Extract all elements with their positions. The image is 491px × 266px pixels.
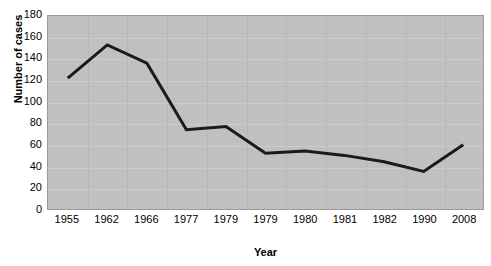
y-tick-label: 0 — [36, 204, 42, 215]
x-tick-label: 1981 — [333, 213, 357, 226]
data-series-line — [48, 16, 483, 209]
x-tick-label: 1980 — [293, 213, 317, 226]
y-tick-label: 20 — [30, 182, 42, 193]
y-tick-label: 140 — [24, 52, 42, 63]
y-tick-label: 80 — [30, 117, 42, 128]
x-tick-label: 1955 — [55, 213, 79, 226]
x-tick-label: 2008 — [452, 213, 476, 226]
x-axis-title: Year — [47, 246, 484, 258]
x-tick-label: 1990 — [412, 213, 436, 226]
plot-area — [47, 15, 484, 210]
x-tick-label: 1977 — [174, 213, 198, 226]
chart-title — [0, 0, 491, 2]
x-axis-tick-labels: 1955196219661977197919791980198119821990… — [47, 213, 484, 231]
x-tick-label: 1982 — [372, 213, 396, 226]
y-tick-label: 100 — [24, 96, 42, 107]
y-axis-tick-labels: 020406080100120140160180 — [0, 0, 45, 266]
x-tick-label: 1979 — [214, 213, 238, 226]
x-tick-label: 1962 — [94, 213, 118, 226]
y-tick-label: 60 — [30, 139, 42, 150]
x-tick-label: 1966 — [134, 213, 158, 226]
y-tick-label: 120 — [24, 74, 42, 85]
y-tick-label: 40 — [30, 161, 42, 172]
y-tick-label: 180 — [24, 9, 42, 20]
y-tick-label: 160 — [24, 31, 42, 42]
chart-figure: Number of cases 020406080100120140160180… — [0, 0, 491, 266]
x-tick-label: 1979 — [253, 213, 277, 226]
